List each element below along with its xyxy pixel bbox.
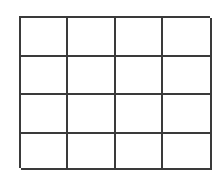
grid-cell-r4-c1[interactable] [21,134,68,170]
grid-cell-r1-c2[interactable] [68,18,116,57]
grid-cell-r3-c1[interactable] [21,95,68,134]
grid-cell-r1-c4[interactable] [163,18,212,57]
grid-cell-r4-c3[interactable] [116,134,163,170]
grid-cell-r4-c2[interactable] [68,134,116,170]
grid-cell-r2-c4[interactable] [163,57,212,95]
grid-cell-r4-c4[interactable] [163,134,212,170]
grid-cell-r2-c3[interactable] [116,57,163,95]
grid-cell-r3-c4[interactable] [163,95,212,134]
grid-cell-r3-c2[interactable] [68,95,116,134]
grid-cell-r3-c3[interactable] [116,95,163,134]
grid-cell-r1-c3[interactable] [116,18,163,57]
grid-cell-r2-c2[interactable] [68,57,116,95]
grid-cell-r2-c1[interactable] [21,57,68,95]
grid-cell-r1-c1[interactable] [21,18,68,57]
empty-grid [19,16,210,168]
